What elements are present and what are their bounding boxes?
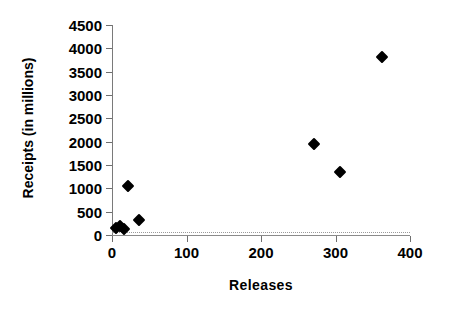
y-axis-title: Receipts (in millions): [20, 13, 36, 243]
y-axis-tick-label: 3500: [44, 65, 102, 80]
x-axis-tick-label: 0: [82, 245, 142, 260]
x-axis-tick: [187, 236, 188, 242]
y-axis-tick-label: 4500: [44, 18, 102, 33]
y-axis-tick-label: 500: [44, 205, 102, 220]
x-axis-tick: [112, 236, 113, 242]
y-axis-tick: [106, 118, 112, 119]
scatter-chart: 050010001500200025003000350040004500 010…: [0, 0, 462, 310]
data-point: [375, 50, 388, 63]
y-axis-tick-label: 4000: [44, 41, 102, 56]
x-axis-title: Releases: [112, 277, 410, 293]
y-axis-tick-label: 1500: [44, 158, 102, 173]
y-axis-tick: [106, 25, 112, 26]
y-axis-tick-label: 3000: [44, 88, 102, 103]
x-axis-tick-label: 200: [231, 245, 291, 260]
x-axis-tick-label: 100: [157, 245, 217, 260]
x-axis-tick-label: 400: [380, 245, 440, 260]
y-axis-tick: [106, 48, 112, 49]
y-axis-tick-label: 1000: [44, 181, 102, 196]
y-axis-tick: [106, 188, 112, 189]
x-axis-tick: [336, 236, 337, 242]
y-axis-tick: [106, 95, 112, 96]
x-axis-tick: [261, 236, 262, 242]
data-point: [121, 179, 134, 192]
y-axis-line: [112, 25, 113, 236]
y-axis-tick-label: 2000: [44, 135, 102, 150]
y-axis-tick-label: 0: [44, 228, 102, 243]
x-axis-tick-label: 300: [306, 245, 366, 260]
x-axis-tick: [410, 236, 411, 242]
x-axis-dotted-guide: [112, 232, 410, 234]
data-point: [132, 214, 145, 227]
y-axis-tick: [106, 72, 112, 73]
y-axis-tick: [106, 212, 112, 213]
data-point: [308, 138, 321, 151]
data-point: [334, 166, 347, 179]
y-axis-tick: [106, 165, 112, 166]
y-axis-tick: [106, 142, 112, 143]
y-axis-tick-label: 2500: [44, 111, 102, 126]
